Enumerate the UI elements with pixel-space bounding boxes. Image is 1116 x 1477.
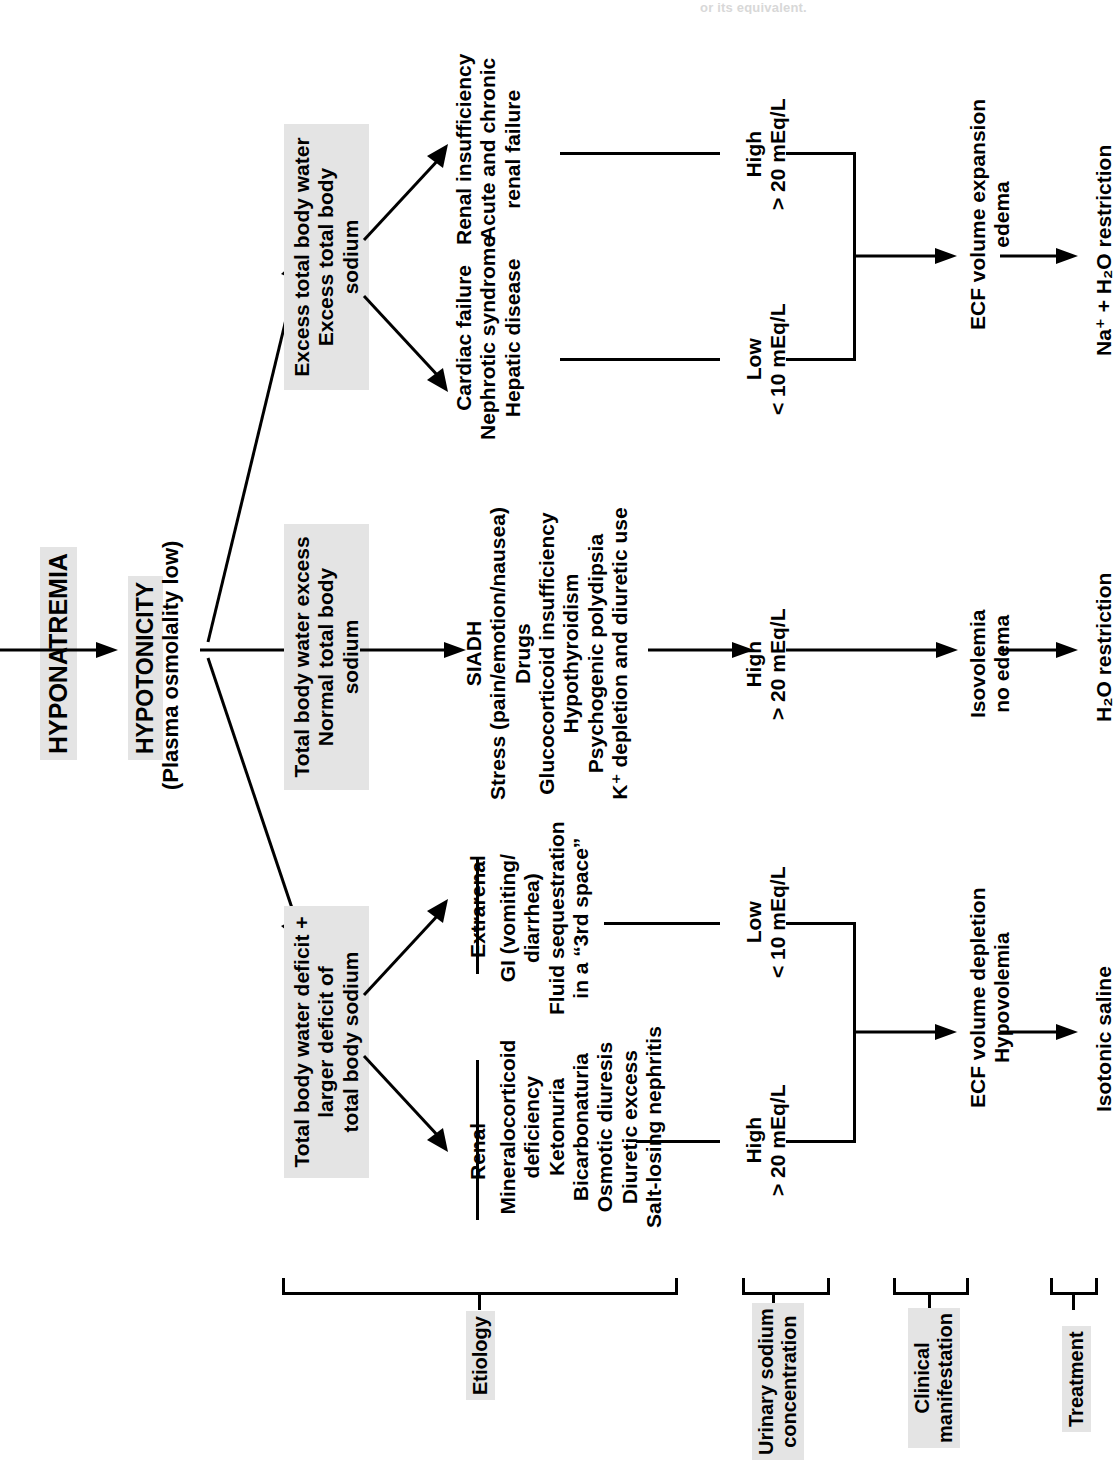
etiology-item: Hypothyroidism xyxy=(559,507,583,800)
bracket-treatment-stem xyxy=(1072,1292,1075,1310)
arrow-merge-to-ecf-depletion xyxy=(853,1022,963,1042)
bracket-urine-cap-top xyxy=(742,1278,745,1295)
bracket-etiology-cap-bottom xyxy=(675,1278,678,1295)
treatment-euvolemic: H₂O restriction xyxy=(1092,573,1116,722)
arrow-hypovolemic-to-extrarenal xyxy=(358,895,458,1005)
state-line: Total body water excess xyxy=(290,532,314,782)
etiology-group-siadh: SIADH Stress (pain/emotion/nausea) Drugs… xyxy=(462,507,633,800)
merge-bottom-arm-low xyxy=(786,922,856,925)
etiology-group-cardiac-failure: Cardiac failure Nephrotic syndrome Hepat… xyxy=(452,236,525,440)
urine-sodium-hypovolemic-high: High > 20 mEq/L xyxy=(742,1085,791,1196)
state-line: Normal total body xyxy=(314,532,338,782)
clinical-line: edema xyxy=(990,99,1014,330)
divider-extrarenal xyxy=(476,858,479,974)
bracket-clinical-cap-top xyxy=(893,1278,896,1295)
node-state-hypervolemic: Excess total body water Excess total bod… xyxy=(284,124,369,390)
arrow-isovolemia-to-treatment xyxy=(1000,640,1080,660)
column-label-clinical-manifestation: Clinical manifestation xyxy=(908,1308,960,1448)
bracket-clinical-spine xyxy=(893,1292,969,1295)
urine-sodium-hypovolemic-low: Low < 10 mEq/L xyxy=(742,867,791,978)
etiology-item: Nephrotic syndrome xyxy=(476,236,500,440)
column-label-line: Treatment xyxy=(1065,1331,1088,1427)
bracket-urine-spine xyxy=(742,1292,830,1295)
cut-off-header-text: or its equivalent. xyxy=(700,0,1110,14)
arrow-ecf-expansion-to-treatment xyxy=(1000,246,1080,266)
etiology-item: SIADH xyxy=(462,507,486,800)
column-label-line: Clinical xyxy=(911,1313,934,1443)
treatment-line: Isotonic saline xyxy=(1092,966,1116,1112)
connector-renal-insufficiency-to-urine xyxy=(560,152,720,155)
node-state-euvolemic: Total body water excess Normal total bod… xyxy=(284,524,369,790)
urine-level: Low xyxy=(742,304,766,415)
node-state-hypovolemic: Total body water deficit + larger defici… xyxy=(284,906,369,1178)
etiology-item: Diuretic excess xyxy=(618,1026,642,1228)
etiology-item: deficiency xyxy=(520,1026,544,1228)
treatment-line: H₂O restriction xyxy=(1092,573,1116,722)
urine-level: Low xyxy=(742,867,766,978)
treatment-line: Na⁺ + H₂O restriction xyxy=(1092,145,1116,356)
etiology-item: Renal insufficiency xyxy=(452,54,476,245)
treatment-hypervolemic: Na⁺ + H₂O restriction xyxy=(1092,145,1116,356)
bracket-urine-cap-bottom xyxy=(827,1278,830,1295)
etiology-item: K⁺ depletion and diuretic use xyxy=(608,507,632,800)
bracket-etiology-stem xyxy=(478,1292,481,1310)
bracket-etiology-cap-top xyxy=(282,1278,285,1295)
clinical-hypovolemic: ECF volume depletion Hypovolemia xyxy=(966,887,1015,1108)
clinical-hypervolemic: ECF volume expansion edema xyxy=(966,99,1015,330)
node-hypotonicity-sub: (Plasma osmolality low) xyxy=(158,541,184,790)
connector-extrarenal-to-urine xyxy=(604,922,720,925)
clinical-line: ECF volume expansion xyxy=(966,99,990,330)
etiology-item: Drugs xyxy=(511,507,535,800)
urine-value: > 20 mEq/L xyxy=(766,609,790,720)
arrow-ecf-depletion-to-treatment xyxy=(1000,1022,1080,1042)
treatment-hypovolemic: Isotonic saline xyxy=(1092,966,1116,1112)
etiology-item: Stress (pain/emotion/nausea) xyxy=(486,507,510,800)
arrow-root-to-hypotonicity xyxy=(0,640,120,660)
etiology-group-renal-insufficiency: Renal insufficiency Acute and chronic re… xyxy=(452,54,525,245)
state-line: larger deficit of xyxy=(314,914,338,1170)
urine-level: High xyxy=(742,1085,766,1196)
etiology-item: Hepatic disease xyxy=(501,236,525,440)
urine-sodium-hypervolemic-low: Low < 10 mEq/L xyxy=(742,304,791,415)
etiology-item: Psychogenic polydipsia xyxy=(584,507,608,800)
urine-sodium-euvolemic-high: High > 20 mEq/L xyxy=(742,609,791,720)
state-line: Total body water deficit + xyxy=(290,914,314,1170)
etiology-item: in a “3rd space” xyxy=(569,821,593,1015)
arrow-hypervolemic-to-renal-insufficiency xyxy=(358,140,458,250)
bracket-treatment-cap-top xyxy=(1050,1278,1053,1295)
etiology-item: Acute and chronic xyxy=(476,54,500,245)
clinical-line: ECF volume depletion xyxy=(966,887,990,1108)
etiology-item: Cardiac failure xyxy=(452,236,476,440)
arrow-urine-to-isovolemia xyxy=(786,640,966,660)
etiology-item: GI (vomiting/ xyxy=(496,821,520,1015)
connector-renal-to-urine xyxy=(636,1140,720,1143)
node-hypotonicity-label: HYPOTONICITY xyxy=(132,582,158,754)
etiology-item: diarrhea) xyxy=(520,821,544,1015)
merge-bottom-arm-high xyxy=(786,1140,856,1143)
etiology-item: Osmotic diuresis xyxy=(593,1026,617,1228)
etiology-group-extrarenal: GI (vomiting/ diarrhea) Fluid sequestrat… xyxy=(496,821,593,1015)
column-label-etiology: Etiology xyxy=(466,1311,495,1400)
column-label-urinary-sodium-concentration: Urinary sodium concentration xyxy=(752,1303,804,1460)
etiology-group-renal: Mineralocorticoid deficiency Ketonuria B… xyxy=(496,1026,667,1228)
clinical-euvolemic: Isovolemia no edema xyxy=(966,609,1015,718)
connector-cardiac-failure-to-urine xyxy=(560,358,720,361)
etiology-item: Bicarbonaturia xyxy=(569,1026,593,1228)
column-label-treatment: Treatment xyxy=(1062,1326,1091,1432)
clinical-line: Isovolemia xyxy=(966,609,990,718)
etiology-item: Ketonuria xyxy=(545,1026,569,1228)
etiology-item: Fluid sequestration xyxy=(545,821,569,1015)
state-line: Excess total body water xyxy=(290,132,314,382)
divider-renal xyxy=(476,1060,479,1220)
arrow-euvolemic-to-etiology xyxy=(360,640,470,660)
clinical-line: Hypovolemia xyxy=(990,887,1014,1108)
arrow-hypervolemic-to-cardiac-failure xyxy=(358,290,458,400)
column-label-line: manifestation xyxy=(934,1313,957,1443)
bracket-treatment-cap-bottom xyxy=(1095,1278,1098,1295)
urine-sodium-hypervolemic-high: High > 20 mEq/L xyxy=(742,99,791,210)
etiology-item: Glucocorticoid insufficiency xyxy=(535,507,559,800)
node-hypotonicity-sub-label: (Plasma osmolality low) xyxy=(158,541,183,790)
merge-top-arm-low xyxy=(786,358,856,361)
arrow-hypovolemic-to-renal xyxy=(358,1050,458,1160)
